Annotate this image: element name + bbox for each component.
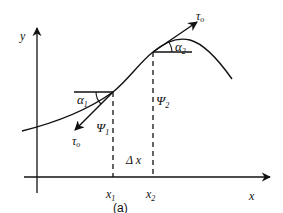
figure-caption: (a) <box>113 201 128 213</box>
tau-2-label: τo <box>196 9 204 24</box>
x2-tick-label: x2 <box>145 187 155 203</box>
diagram-canvas: y x α1 α2 Ψ1 Ψ2 τo τo Δ x x1 x2 (a) <box>0 0 283 213</box>
psi-1-label: Ψ1 <box>96 120 109 137</box>
angle-arc-2 <box>168 41 172 52</box>
x-axis-label: x <box>248 189 255 203</box>
tau-1-label: τo <box>72 134 80 149</box>
alpha-1-label: α1 <box>77 92 88 109</box>
alpha-2-label: α2 <box>175 39 186 56</box>
psi-2-label: Ψ2 <box>156 93 169 110</box>
curve <box>22 39 232 131</box>
y-axis-label: y <box>19 29 26 43</box>
delta-x-label: Δ x <box>125 153 142 167</box>
